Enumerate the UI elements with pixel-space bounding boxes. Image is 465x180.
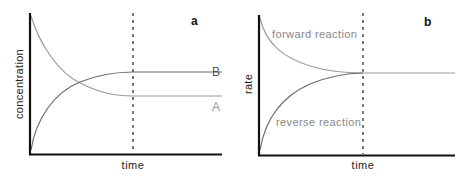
y-axis-label-a: concentration: [13, 49, 25, 119]
x-axis-label-a: time: [122, 159, 145, 171]
panel-label-b: b: [424, 15, 431, 29]
curve-b-concentration: [31, 72, 222, 150]
panel-label-a: a: [191, 14, 198, 28]
y-axis-label-b: rate: [242, 74, 254, 94]
series-label-b: B: [212, 65, 220, 79]
x-axis-label-b: time: [352, 159, 375, 171]
figure: a B A time concentration b forward react…: [0, 0, 465, 180]
reverse-reaction-label: reverse reaction: [276, 116, 361, 128]
panel-b: b forward reaction reverse reaction time…: [242, 13, 455, 171]
forward-reaction-label: forward reaction: [272, 28, 357, 40]
panel-a: a B A time concentration: [13, 13, 222, 171]
curve-reverse-reaction: [260, 73, 363, 150]
curve-a-concentration: [31, 16, 222, 96]
series-label-a: A: [212, 100, 220, 114]
